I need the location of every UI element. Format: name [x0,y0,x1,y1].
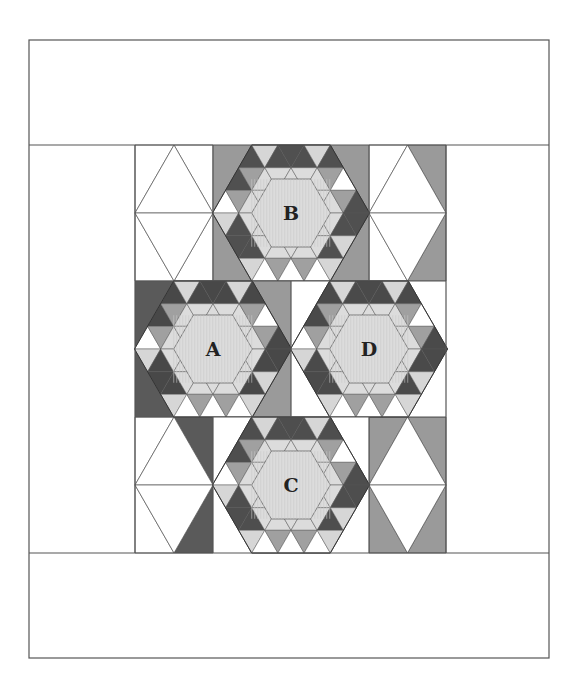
diamond-column [135,145,213,281]
block-label-b: B [283,202,299,224]
diamond-column [369,417,446,553]
block-label-d: D [361,338,377,360]
quilt-layout-diagram: B A D C [0,0,578,692]
block-label-a: A [205,338,221,360]
diamond-column [135,417,213,553]
block-label-c: C [283,474,298,496]
diamond-column [369,145,446,281]
